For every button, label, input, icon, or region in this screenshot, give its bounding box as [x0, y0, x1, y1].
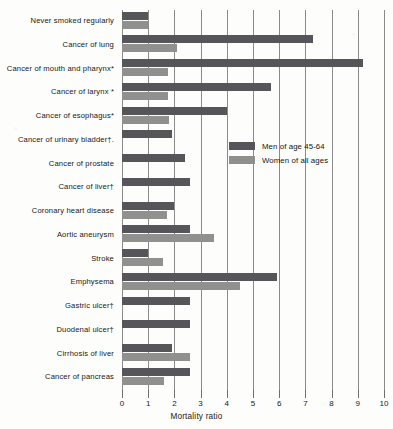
category-label: Cirrhosis of liver [57, 343, 114, 365]
category-label: Never smoked regularly [31, 10, 115, 32]
bar-men [122, 202, 174, 210]
category-label: Gastric ulcer† [65, 295, 114, 317]
x-tick-6 [279, 390, 280, 398]
bar-women [122, 92, 168, 100]
bar-men [122, 35, 313, 43]
x-tick-label-2: 2 [162, 399, 186, 408]
bar-women [122, 282, 240, 290]
category-label: Coronary heart disease [32, 200, 114, 222]
bar-row [122, 343, 384, 365]
x-tick-4 [227, 390, 228, 398]
bar-women [122, 211, 167, 219]
bar-row [122, 34, 384, 56]
bar-women [122, 377, 164, 385]
x-tick-0 [122, 390, 123, 398]
legend-item: Women of all ages [229, 153, 328, 167]
x-tick-label-5: 5 [241, 399, 265, 408]
bar-row [122, 10, 384, 32]
category-label: Cancer of liver† [58, 176, 114, 198]
bar-men [122, 130, 172, 138]
x-tick-7 [305, 390, 306, 398]
category-label: Cancer of urinary bladder†. [18, 129, 114, 151]
legend-label: Men of age 45-64 [262, 142, 325, 151]
x-tick-label-7: 7 [293, 399, 317, 408]
legend-swatch-men [229, 142, 255, 150]
category-label: Cancer of esophagus* [36, 105, 114, 127]
category-label: Emphysema [70, 271, 114, 293]
category-label: Cancer of larynx * [51, 81, 114, 103]
legend-label: Women of all ages [262, 156, 328, 165]
category-label: Cancer of prostate [49, 153, 114, 175]
bar-row [122, 319, 384, 341]
x-axis-title: Mortality ratio [0, 412, 393, 421]
x-tick-1 [148, 390, 149, 398]
bar-women [122, 116, 169, 124]
bar-row [122, 176, 384, 198]
x-tick-10 [384, 390, 385, 398]
bar-row [122, 224, 384, 246]
legend-item: Men of age 45-64 [229, 139, 328, 153]
x-tick-label-0: 0 [110, 399, 134, 408]
x-tick-label-10: 10 [372, 399, 393, 408]
bar-row [122, 366, 384, 388]
bar-women [122, 21, 148, 29]
bar-men [122, 225, 190, 233]
bar-row [122, 58, 384, 80]
x-tick-label-6: 6 [267, 399, 291, 408]
x-tick-3 [201, 390, 202, 398]
bar-men [122, 178, 190, 186]
x-tick-9 [358, 390, 359, 398]
bar-men [122, 368, 190, 376]
mortality-ratio-bar-chart: Never smoked regularlyCancer of lungCanc… [0, 0, 393, 429]
category-axis-labels: Never smoked regularlyCancer of lungCanc… [0, 10, 118, 390]
bar-rows [122, 10, 384, 390]
legend-swatch-women [229, 156, 255, 164]
bar-men [122, 344, 172, 352]
bar-men [122, 297, 190, 305]
bar-row [122, 248, 384, 270]
plot-area [122, 10, 384, 390]
gridline-10 [384, 10, 385, 390]
bar-row [122, 200, 384, 222]
x-tick-label-1: 1 [136, 399, 160, 408]
bar-row [122, 271, 384, 293]
category-label: Aortic aneurysm [57, 224, 114, 246]
bar-men [122, 154, 185, 162]
bar-men [122, 107, 227, 115]
bar-row [122, 295, 384, 317]
bar-men [122, 273, 277, 281]
x-tick-2 [174, 390, 175, 398]
bar-women [122, 353, 190, 361]
x-tick-8 [332, 390, 333, 398]
bar-men [122, 59, 363, 67]
x-tick-label-9: 9 [346, 399, 370, 408]
bar-men [122, 83, 271, 91]
x-tick-label-3: 3 [189, 399, 213, 408]
x-tick-label-4: 4 [215, 399, 239, 408]
bar-men [122, 249, 148, 257]
bar-men [122, 320, 190, 328]
bar-row [122, 81, 384, 103]
bar-women [122, 234, 214, 242]
bar-women [122, 68, 168, 76]
x-tick-label-8: 8 [320, 399, 344, 408]
category-label: Duodenal ulcer† [56, 319, 114, 341]
bar-men [122, 12, 148, 20]
x-tick-5 [253, 390, 254, 398]
category-label: Cancer of pancreas [45, 366, 114, 388]
chart-legend: Men of age 45-64Women of all ages [229, 139, 328, 167]
category-label: Cancer of lung [63, 34, 115, 56]
category-label: Stroke [91, 248, 114, 270]
category-label: Cancer of mouth and pharynx* [7, 58, 114, 80]
bar-women [122, 258, 163, 266]
bar-row [122, 105, 384, 127]
bar-women [122, 44, 177, 52]
